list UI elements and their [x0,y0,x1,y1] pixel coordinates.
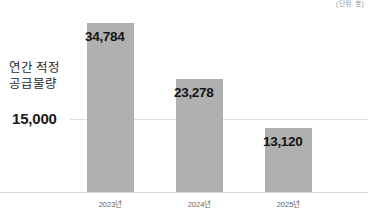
bar-chart: (단위: 호) 연간 적정 공급물량 15,000 34,7842023년23,… [0,0,368,216]
bar [87,23,134,192]
bar-value-label: 23,278 [174,85,214,100]
category-label: 2025년 [265,198,312,209]
category-label: 2023년 [87,198,134,209]
x-axis-line [0,192,368,193]
category-label: 2024년 [176,198,223,209]
bar-value-label: 13,120 [263,134,303,149]
plot-area: 34,7842023년23,2782024년13,1202025년 [0,0,368,216]
bar-value-label: 34,784 [85,29,125,44]
